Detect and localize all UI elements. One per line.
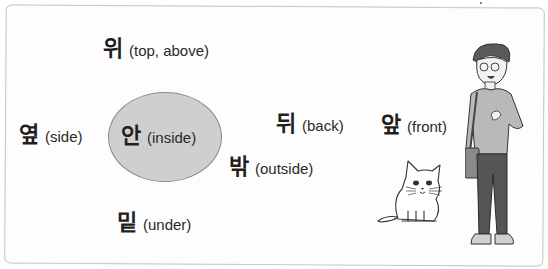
word-back: 뒤 (back) <box>276 105 344 137</box>
word-under: 밑 (under) <box>117 204 191 236</box>
word-front: 앞 (front) <box>381 106 447 138</box>
korean-label: 뒤 <box>276 105 296 137</box>
english-label: (back) <box>302 117 344 134</box>
word-top: 위 (top, above) <box>103 30 209 62</box>
korean-label: 옆 <box>19 116 39 148</box>
cat-illustration <box>372 155 452 227</box>
vocabulary-card <box>4 4 545 266</box>
stray-dot <box>480 2 482 4</box>
english-label: (side) <box>45 128 83 145</box>
english-label: (inside) <box>147 129 196 146</box>
word-side: 옆 (side) <box>19 116 83 148</box>
english-label: (top, above) <box>129 42 209 59</box>
boy-illustration <box>465 42 531 252</box>
korean-label: 밖 <box>229 148 249 180</box>
english-label: (under) <box>143 216 191 233</box>
korean-label: 밑 <box>117 204 137 236</box>
korean-label: 앞 <box>381 106 401 138</box>
word-outside: 밖 (outside) <box>229 148 313 180</box>
english-label: (outside) <box>255 160 313 177</box>
korean-label: 안 <box>121 117 141 149</box>
korean-label: 위 <box>103 30 123 62</box>
english-label: (front) <box>407 118 447 135</box>
word-inside: 안 (inside) <box>121 117 196 149</box>
